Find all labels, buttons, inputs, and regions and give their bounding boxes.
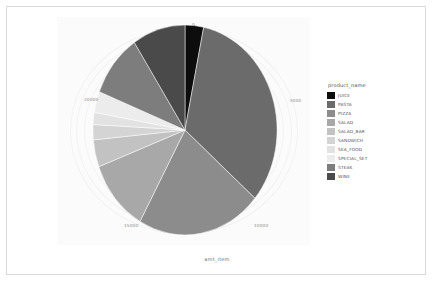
legend-label: PASTA bbox=[338, 102, 352, 107]
legend-item: WINE bbox=[327, 172, 389, 181]
legend-label: STEAK bbox=[338, 165, 353, 170]
legend-item: SALAD bbox=[327, 118, 389, 127]
legend-item: SALAD_BAR bbox=[327, 127, 389, 136]
legend-swatch bbox=[327, 155, 335, 162]
tick-label-0: 0 bbox=[192, 22, 195, 27]
legend-item: SPECIAL_SET bbox=[327, 154, 389, 163]
legend-item: PASTA bbox=[327, 100, 389, 109]
tick-label-10000: 10000 bbox=[254, 223, 268, 228]
legend-swatch bbox=[327, 101, 335, 108]
legend-item: SEA_FOOD bbox=[327, 145, 389, 154]
legend-swatch bbox=[327, 110, 335, 117]
legend-title: product_name bbox=[328, 82, 389, 88]
legend-label: SPECIAL_SET bbox=[338, 156, 368, 161]
legend-swatch bbox=[327, 119, 335, 126]
legend-item: SANDWICH bbox=[327, 136, 389, 145]
legend: product_name JUICEPASTAPIZZASALADSALAD_B… bbox=[327, 82, 389, 181]
legend-swatch bbox=[327, 164, 335, 171]
legend-label: WINE bbox=[338, 174, 350, 179]
legend-label: SALAD_BAR bbox=[338, 129, 365, 134]
legend-label: SEA_FOOD bbox=[338, 147, 362, 152]
legend-swatch bbox=[327, 173, 335, 180]
legend-swatch bbox=[327, 92, 335, 99]
legend-swatch bbox=[327, 128, 335, 135]
tick-label-20000: 20000 bbox=[84, 97, 98, 102]
tick-label-15000: 15000 bbox=[124, 223, 138, 228]
x-axis-title: amt_item bbox=[0, 256, 434, 262]
pie-chart bbox=[92, 24, 278, 236]
legend-entries: JUICEPASTAPIZZASALADSALAD_BARSANDWICHSEA… bbox=[327, 91, 389, 181]
legend-label: SANDWICH bbox=[338, 138, 363, 143]
tick-label-5000: 5000 bbox=[290, 98, 301, 103]
legend-item: PIZZA bbox=[327, 109, 389, 118]
pie-slices bbox=[92, 24, 278, 236]
legend-label: PIZZA bbox=[338, 111, 351, 116]
legend-label: JUICE bbox=[338, 93, 350, 98]
legend-swatch bbox=[327, 137, 335, 144]
chart-figure: 0 5000 10000 15000 20000 amt_item produc… bbox=[0, 0, 434, 283]
legend-label: SALAD bbox=[338, 120, 353, 125]
legend-swatch bbox=[327, 146, 335, 153]
legend-item: JUICE bbox=[327, 91, 389, 100]
legend-item: STEAK bbox=[327, 163, 389, 172]
